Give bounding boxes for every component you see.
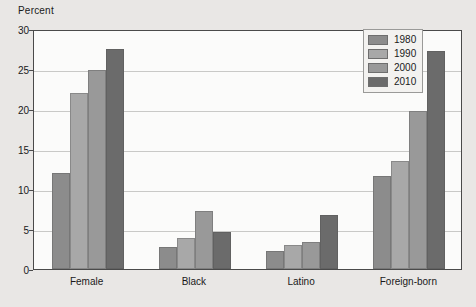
x-axis-tick-label: Foreign-born	[380, 276, 437, 287]
y-axis-tick-label: 15	[0, 145, 29, 156]
x-axis-tick-label: Latino	[288, 276, 315, 287]
bar	[409, 111, 427, 269]
legend-swatch	[368, 35, 388, 45]
bar	[52, 173, 70, 269]
bar	[427, 51, 445, 269]
bar	[177, 238, 195, 269]
bar	[320, 215, 338, 269]
legend-label: 1990	[394, 49, 416, 59]
bar	[88, 70, 106, 269]
legend-label: 2010	[394, 77, 416, 87]
bar-group	[266, 31, 338, 269]
y-axis-tick-label: 5	[0, 225, 29, 236]
x-axis-tick-label: Black	[182, 276, 206, 287]
legend-label: 2000	[394, 63, 416, 73]
y-axis-title: Percent	[18, 5, 54, 16]
y-axis-tick-label: 10	[0, 185, 29, 196]
bar	[266, 251, 284, 269]
bar	[284, 245, 302, 269]
y-axis-tick-label: 20	[0, 105, 29, 116]
legend-swatch	[368, 77, 388, 87]
y-axis-tick-mark	[29, 270, 33, 271]
bar	[159, 247, 177, 269]
bar	[195, 211, 213, 269]
legend-label: 1980	[394, 35, 416, 45]
bar-chart-figure: Percent 051015202530 FemaleBlackLatinoFo…	[0, 0, 476, 307]
bar-group	[52, 31, 124, 269]
y-axis-tick-label: 0	[0, 265, 29, 276]
bar	[373, 176, 391, 269]
bar	[70, 93, 88, 269]
legend-item: 1990	[368, 47, 416, 61]
legend-item: 2010	[368, 75, 416, 89]
legend-swatch	[368, 49, 388, 59]
bar	[302, 242, 320, 269]
legend-item: 1980	[368, 33, 416, 47]
x-axis-tick-labels: FemaleBlackLatinoForeign-born	[33, 276, 462, 296]
bar-group	[159, 31, 231, 269]
y-axis-tick-labels: 051015202530	[0, 30, 29, 270]
x-axis-tick-label: Female	[70, 276, 103, 287]
bar	[213, 232, 231, 269]
legend-item: 2000	[368, 61, 416, 75]
bar	[391, 161, 409, 269]
bar	[106, 49, 124, 269]
chart-legend: 1980199020002010	[363, 29, 423, 93]
y-axis-tick-label: 25	[0, 65, 29, 76]
legend-swatch	[368, 63, 388, 73]
y-axis-tick-label: 30	[0, 25, 29, 36]
